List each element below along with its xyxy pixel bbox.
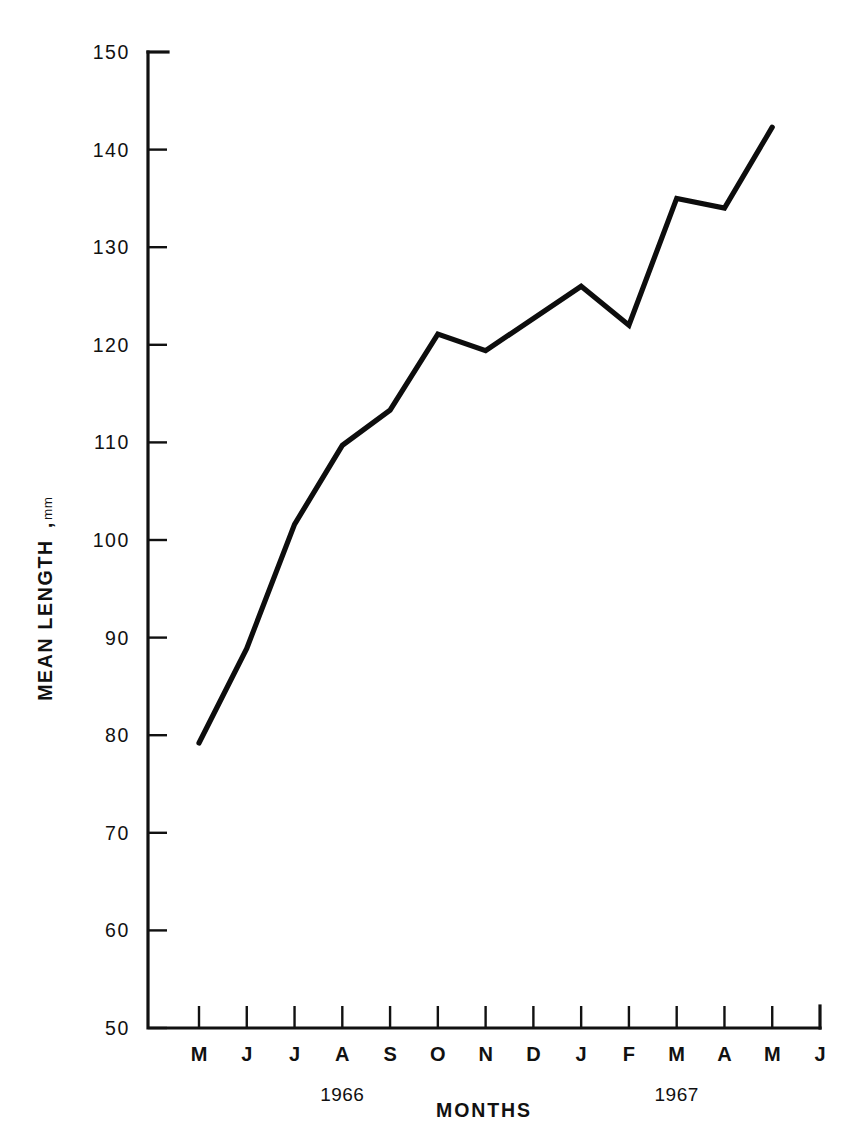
x-tick-label: A xyxy=(717,1043,731,1065)
x-tick-label: J xyxy=(289,1043,300,1065)
y-tick-label: 60 xyxy=(105,919,130,941)
x-tick-label: N xyxy=(478,1043,492,1065)
x-tick-label: A xyxy=(335,1043,349,1065)
y-tick-label: 110 xyxy=(94,431,130,453)
y-axis-unit-text: mm xyxy=(40,496,55,520)
x-tick-label: F xyxy=(623,1043,635,1065)
y-tick-label: 100 xyxy=(93,529,130,551)
line-chart: MEAN LENGTH , mm 50607080901001101201301… xyxy=(0,0,858,1131)
y-tick-label: 80 xyxy=(105,724,130,746)
x-tick-label: M xyxy=(191,1043,208,1065)
x-axis-title: MONTHS xyxy=(436,1099,532,1121)
x-tick-label: J xyxy=(241,1043,252,1065)
y-tick-label: 70 xyxy=(105,822,130,844)
y-tick-label: 90 xyxy=(105,627,130,649)
x-tick-label: J xyxy=(576,1043,587,1065)
y-axis-ticks: 5060708090100110120130140150 xyxy=(93,41,167,1039)
axes-lines xyxy=(148,52,820,1028)
x-tick-label: M xyxy=(764,1043,781,1065)
data-series-line xyxy=(199,127,772,743)
x-tick-label: S xyxy=(383,1043,396,1065)
y-tick-label: 50 xyxy=(105,1017,130,1039)
x-tick-label: O xyxy=(430,1043,446,1065)
y-tick-label: 120 xyxy=(93,334,130,356)
x-axis-year-label: 1966 xyxy=(320,1084,364,1105)
y-tick-label: 130 xyxy=(93,236,130,258)
x-tick-label: M xyxy=(668,1043,685,1065)
x-axis-ticks: MJJASONDJFMAMJ xyxy=(191,1006,826,1065)
x-axis-year-label: 1967 xyxy=(655,1084,699,1105)
y-axis-title: MEAN LENGTH , mm xyxy=(34,496,56,701)
y-axis-title-text: MEAN LENGTH xyxy=(34,539,56,701)
x-tick-label: J xyxy=(814,1043,825,1065)
chart-figure: MEAN LENGTH , mm 50607080901001101201301… xyxy=(0,0,858,1131)
y-tick-label: 140 xyxy=(93,139,130,161)
y-axis-title-comma: , xyxy=(34,521,56,528)
x-tick-label: D xyxy=(526,1043,540,1065)
y-tick-label: 150 xyxy=(93,41,130,63)
